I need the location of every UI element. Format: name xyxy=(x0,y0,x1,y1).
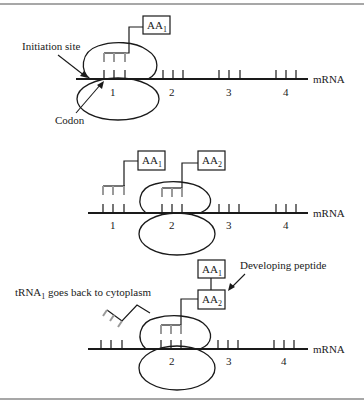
codon-4-ticks xyxy=(274,340,294,349)
panel-initiation: AA1 1 2 3 4 mRNA Initiation site Codon xyxy=(22,16,345,126)
codon-number: 3 xyxy=(226,86,232,98)
ribosome-large-subunit xyxy=(140,182,211,213)
trna-released-label: tRNA1 goes back to cytoplasm xyxy=(15,286,151,301)
trna-2 xyxy=(162,163,198,197)
codon-arrow xyxy=(76,84,101,113)
codon-number: 3 xyxy=(226,219,232,231)
developing-peptide-label: Developing peptide xyxy=(240,259,327,271)
ribosome-large-subunit xyxy=(140,316,211,349)
peptide-arrowhead xyxy=(228,283,235,291)
initiation-site-label: Initiation site xyxy=(22,40,80,52)
codon-number: 1 xyxy=(110,219,116,231)
ribosome-large-subunit xyxy=(83,43,157,79)
codon-3-ticks xyxy=(219,204,239,213)
codon-3-ticks xyxy=(219,70,240,79)
trna-1 xyxy=(103,161,138,195)
codon-number: 3 xyxy=(226,355,232,367)
aa1-label: AA1 xyxy=(147,19,167,34)
codon-number: 4 xyxy=(281,355,287,367)
codon-4-ticks xyxy=(276,204,296,213)
codon-number: 2 xyxy=(169,219,175,231)
panel-translocation: AA1 AA2 tRNA1 goes back to cytoplasm Dev… xyxy=(15,259,345,390)
codon-3-ticks xyxy=(218,340,238,349)
codon-number: 2 xyxy=(169,86,175,98)
aa1-label: AA1 xyxy=(202,263,222,278)
ribosome-small-subunit xyxy=(139,213,215,255)
initiation-arrow xyxy=(58,55,85,76)
released-trna-1 xyxy=(103,305,150,327)
aa2-label: AA2 xyxy=(202,154,222,169)
codon-4-ticks xyxy=(276,70,296,79)
initiation-arrowhead xyxy=(80,71,88,78)
translation-diagram: AA1 1 2 3 4 mRNA Initiation site Codon xyxy=(0,0,364,404)
panel-elongation: AA1 AA2 1 2 3 4 mRNA xyxy=(88,151,345,255)
ribosome-small-subunit xyxy=(139,346,215,390)
mrna-label: mRNA xyxy=(313,343,345,355)
codon-number: 4 xyxy=(283,86,289,98)
aa1-label: AA1 xyxy=(142,154,162,169)
codon-1-ticks xyxy=(103,204,124,213)
mrna-label: mRNA xyxy=(313,207,345,219)
codon-number: 4 xyxy=(283,219,289,231)
aa2-label: AA2 xyxy=(202,293,222,308)
ribosome-small-subunit xyxy=(77,78,159,120)
codon-label: Codon xyxy=(55,114,85,126)
codon-2-ticks xyxy=(163,70,183,79)
codon-1-ticks xyxy=(101,340,122,349)
mrna-label: mRNA xyxy=(313,73,345,85)
codon-number: 2 xyxy=(169,355,175,367)
codon-2-ticks xyxy=(162,204,182,213)
codon-number: 1 xyxy=(110,86,116,98)
